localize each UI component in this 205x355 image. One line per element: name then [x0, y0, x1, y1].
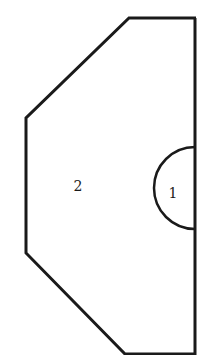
region-diagram: 2 1: [0, 0, 205, 355]
region-2-label: 2: [74, 178, 83, 194]
region-1-label: 1: [169, 185, 178, 201]
